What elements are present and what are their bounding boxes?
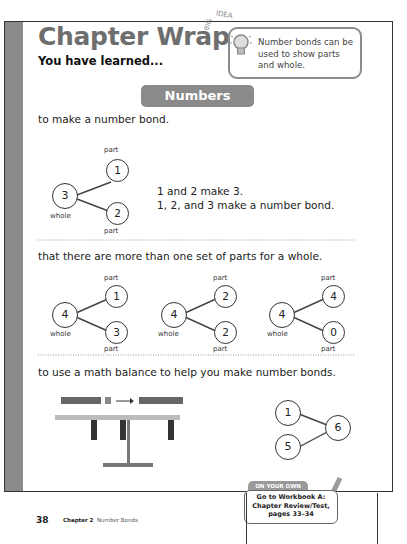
bond-part-circle: 2: [106, 202, 129, 225]
part-label: part: [321, 345, 335, 353]
part-label: part: [213, 345, 227, 353]
bond-whole-circle: 3: [52, 183, 78, 209]
bond-part-circle: 1: [106, 159, 129, 182]
bond-part-circle: 3: [105, 321, 128, 344]
math-balance-illustration: [55, 397, 183, 467]
bond-connector-lines: [0, 0, 407, 544]
whole-label: whole: [158, 330, 179, 338]
bond-part-circle: 0: [322, 321, 345, 344]
section-2-heading: that there are more than one set of part…: [38, 250, 322, 262]
bond-whole-circle: 6: [325, 415, 351, 441]
divider: [377, 493, 378, 544]
page-number: 38: [36, 515, 49, 525]
bond-part-circle: 1: [105, 285, 128, 308]
footer-chapter: Chapter 2: [63, 517, 93, 523]
section-3-heading: to use a math balance to help you make n…: [38, 366, 336, 378]
bond-part-circle: 1: [275, 400, 301, 426]
part-label: part: [321, 274, 335, 282]
explanation-line: 1, 2, and 3 make a number bond.: [157, 199, 334, 211]
bond-part-circle: 4: [322, 285, 345, 308]
bond-part-circle: 5: [275, 434, 301, 460]
bond-part-circle: 2: [214, 321, 237, 344]
bond-part-circle: 2: [214, 285, 237, 308]
bond-whole-circle: 4: [161, 302, 187, 328]
workbook-reference: Go to Workbook A: Chapter Review/Test, p…: [246, 493, 336, 519]
bond-whole-circle: 4: [52, 302, 78, 328]
whole-label: whole: [50, 212, 71, 220]
part-label: part: [213, 274, 227, 282]
whole-label: whole: [50, 330, 71, 338]
part-label: part: [104, 274, 118, 282]
bond-whole-circle: 4: [269, 302, 295, 328]
part-label: part: [104, 227, 118, 235]
divider: [246, 493, 247, 544]
part-label: part: [104, 345, 118, 353]
part-label: part: [104, 146, 118, 154]
explanation-line: 1 and 2 make 3.: [157, 185, 243, 197]
footer-chapter-name: Number Bonds: [97, 517, 138, 523]
whole-label: whole: [267, 330, 288, 338]
